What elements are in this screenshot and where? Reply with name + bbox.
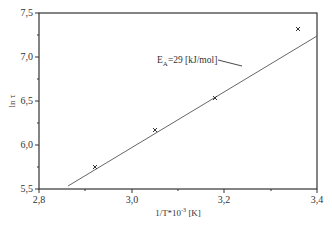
y-tick-label: 7,0 [21,51,34,62]
data-point-x-marker [296,27,300,31]
data-point-x-marker [153,128,157,132]
annotation-pointer [218,60,242,66]
x-axis-label: 1/T*10-3 [K] [155,207,201,218]
y-tick-label: 5,5 [21,183,34,194]
data-points [93,27,300,169]
y-tick-label: 7,5 [21,7,34,18]
x-tick-label: 3,2 [218,194,231,205]
x-tick-label: 2,8 [33,194,46,205]
arrhenius-chart: 5,5 6,0 6,5 7,0 7,5 2,8 3,0 3,2 3,4 1/T*… [0,0,332,226]
activation-energy-annotation: EA=29 [kJ/mol] [157,55,217,68]
y-tick-label: 6,0 [21,139,34,150]
plot-frame [39,13,317,189]
x-tick-label: 3,4 [311,194,324,205]
y-tick-label: 6,5 [21,95,34,106]
x-axis-ticks [39,189,317,193]
data-point-x-marker [93,165,97,169]
y-axis-label: ln τ [7,94,17,107]
x-tick-label: 3,0 [126,194,139,205]
